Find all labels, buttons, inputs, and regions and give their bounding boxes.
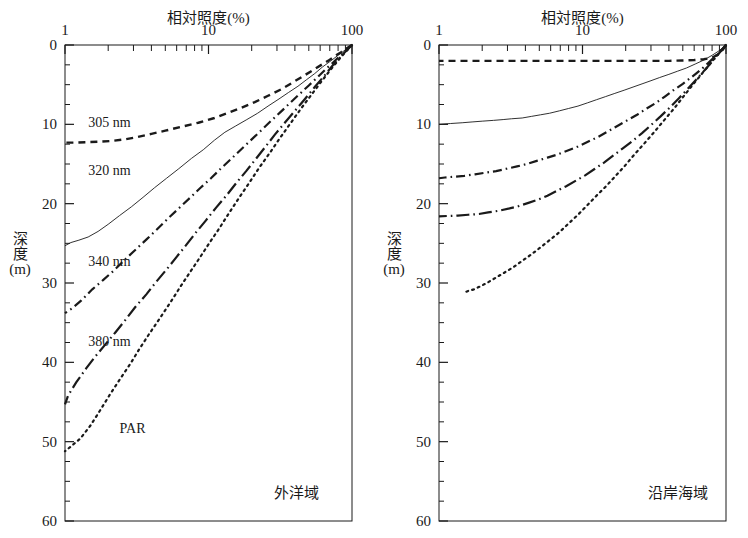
figure-root: 相対照度(%)深度(m)1101000102030405060305 nm320… xyxy=(0,0,748,538)
plot-frame xyxy=(439,45,726,521)
chart-panel-left: 相対照度(%)深度(m)1101000102030405060305 nm320… xyxy=(0,0,374,538)
series-line xyxy=(439,45,726,216)
chart-panel-right: 相対照度(%)深度(m)1101000102030405060沿岸海域 xyxy=(374,0,748,538)
series-label-380-nm: 380 nm xyxy=(88,334,130,350)
series-line xyxy=(65,45,352,246)
panel-caption-left: 外洋域 xyxy=(274,481,319,502)
series-line xyxy=(65,45,352,451)
series-label-320-nm: 320 nm xyxy=(88,163,130,179)
series-label-340-nm: 340 nm xyxy=(88,254,130,270)
series-line xyxy=(439,45,726,178)
series-line xyxy=(65,45,352,313)
plot-surface-right xyxy=(374,0,748,538)
panel-caption-right: 沿岸海域 xyxy=(648,481,708,502)
plot-surface-left xyxy=(0,0,374,538)
series-line xyxy=(464,45,726,293)
series-label-par: PAR xyxy=(120,421,146,437)
series-label-305-nm: 305 nm xyxy=(88,115,130,131)
